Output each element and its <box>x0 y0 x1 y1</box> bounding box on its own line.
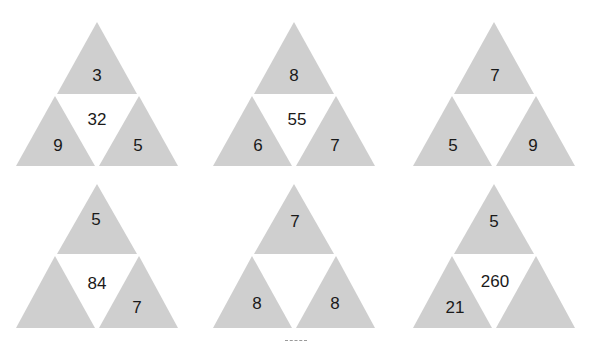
center-number: 55 <box>275 110 319 130</box>
right-number: 7 <box>313 136 357 156</box>
top-number: 7 <box>273 212 317 232</box>
dashed-separator <box>285 340 307 341</box>
left-number: 6 <box>236 136 280 156</box>
right-number: 9 <box>511 136 555 156</box>
triangle-puzzle-1: 3 9 5 32 <box>16 22 178 168</box>
left-number: 21 <box>433 298 477 318</box>
top-number: 3 <box>75 66 119 86</box>
top-number: 5 <box>472 212 516 232</box>
right-number: 7 <box>115 298 159 318</box>
triangle-puzzle-5: 7 8 8 <box>213 184 375 330</box>
top-number: 5 <box>74 210 118 230</box>
top-number: 8 <box>272 66 316 86</box>
center-number: 260 <box>473 272 517 292</box>
right-number: 8 <box>313 294 357 314</box>
center-number: 84 <box>75 274 119 294</box>
right-number: 5 <box>116 136 160 156</box>
left-number: 5 <box>431 136 475 156</box>
center-number: 32 <box>75 110 119 130</box>
triangle-puzzle-6: 5 21 260 <box>413 184 575 330</box>
left-number: 8 <box>235 294 279 314</box>
triangle-puzzle-2: 8 6 7 55 <box>213 22 375 168</box>
triangle-puzzle-4: 5 7 84 <box>16 184 178 330</box>
top-number: 7 <box>473 66 517 86</box>
left-number: 9 <box>36 136 80 156</box>
triangle-puzzle-3: 7 5 9 <box>413 22 575 168</box>
